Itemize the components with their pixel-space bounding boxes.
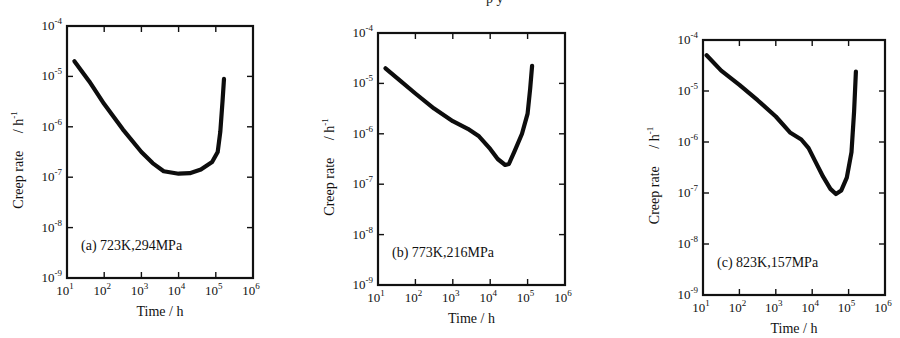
- x-tick-label: 105: [205, 281, 223, 298]
- chart-panel-c: 10110210310410510610-910-810-710-610-510…: [645, 30, 892, 336]
- x-tick-label: 106: [874, 298, 892, 315]
- y-axis-label: Creep rate / h-1: [320, 118, 337, 215]
- x-tick-label: 103: [131, 281, 149, 298]
- chart-panel-a: 10110210310410510610-910-810-710-610-510…: [9, 16, 260, 319]
- y-tick-label: 10-4: [353, 23, 374, 40]
- x-tick-label: 104: [168, 281, 186, 298]
- y-tick-label: 10-5: [353, 73, 374, 90]
- x-tick-label: 106: [242, 281, 260, 298]
- x-axis-label: Time / h: [448, 311, 495, 326]
- y-tick-label: 10-4: [678, 30, 699, 47]
- creep-rate-curve: [386, 66, 533, 165]
- panel-annotation: (b) 773K,216MPa: [392, 245, 495, 261]
- y-tick-label: 10-5: [678, 81, 699, 98]
- x-tick-label: 105: [517, 288, 535, 305]
- x-tick-label: 104: [479, 288, 497, 305]
- y-axis-label: Creep rate / h-1: [9, 111, 26, 208]
- x-tick-label: 102: [405, 288, 423, 305]
- y-tick-label: 10-5: [42, 66, 63, 83]
- x-tick-label: 104: [801, 298, 819, 315]
- x-axis-label: Time / h: [137, 304, 184, 319]
- panel-annotation: (a) 723K,294MPa: [81, 238, 183, 254]
- y-tick-label: 10-6: [42, 117, 63, 134]
- y-tick-label: 10-8: [353, 225, 374, 242]
- y-tick-label: 10-8: [678, 234, 699, 251]
- y-tick-label: 10-6: [353, 124, 374, 141]
- x-tick-label: 106: [554, 288, 572, 305]
- panel-annotation: (c) 823K,157MPa: [717, 255, 819, 271]
- x-tick-label: 102: [93, 281, 111, 298]
- x-tick-label: 103: [442, 288, 460, 305]
- y-tick-label: 10-7: [42, 167, 63, 184]
- x-tick-label: 101: [367, 288, 385, 305]
- y-tick-label: 10-6: [678, 132, 699, 149]
- x-tick-label: 105: [838, 298, 856, 315]
- creep-rate-curve: [707, 55, 856, 194]
- y-tick-label: 10-4: [42, 16, 63, 33]
- y-tick-label: 10-7: [353, 174, 374, 191]
- y-tick-label: 10-7: [678, 183, 699, 200]
- y-axis-label: Creep rate / h-1: [645, 127, 662, 224]
- chart-panel-b: 10110210310410510610-910-810-710-610-510…: [320, 23, 572, 326]
- creep-rate-curve: [74, 61, 224, 173]
- x-tick-label: 103: [765, 298, 783, 315]
- x-tick-label: 101: [56, 281, 74, 298]
- x-tick-label: 102: [729, 298, 747, 315]
- creep-rate-figure: 10110210310410510610-910-810-710-610-510…: [0, 0, 900, 338]
- y-tick-label: 10-8: [42, 218, 63, 235]
- x-axis-label: Time / h: [771, 321, 818, 336]
- x-tick-label: 101: [692, 298, 710, 315]
